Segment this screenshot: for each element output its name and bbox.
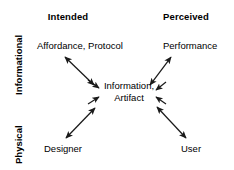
node-designer: Designer: [44, 143, 82, 154]
node-information-artifact: Information, Artifact: [97, 80, 161, 103]
connector-user-to-center: [157, 107, 186, 138]
column-header-perceived: Perceived: [142, 11, 230, 22]
node-information-artifact-line1: Information,: [97, 80, 161, 92]
node-performance: Performance: [163, 40, 217, 51]
node-user: User: [181, 143, 201, 154]
node-affordance-protocol: Affordance, Protocol: [37, 40, 123, 51]
row-label-informational: Informational: [13, 35, 24, 95]
column-header-intended: Intended: [22, 11, 114, 22]
connector-designer-to-center: [66, 108, 95, 138]
diagram-canvas: Intended Perceived Informational Physica…: [0, 0, 234, 170]
row-label-physical: Physical: [13, 125, 24, 164]
node-information-artifact-line2: Artifact: [97, 92, 161, 104]
